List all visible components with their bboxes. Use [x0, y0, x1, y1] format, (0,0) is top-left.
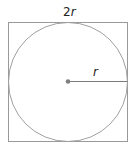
center-dot: [66, 79, 71, 84]
radius-label: r: [93, 66, 98, 78]
side-length-coefficient: 2: [63, 5, 71, 19]
side-length-label: 2r: [63, 6, 76, 18]
diagram-canvas: [0, 0, 136, 149]
side-length-variable: r: [71, 5, 76, 19]
